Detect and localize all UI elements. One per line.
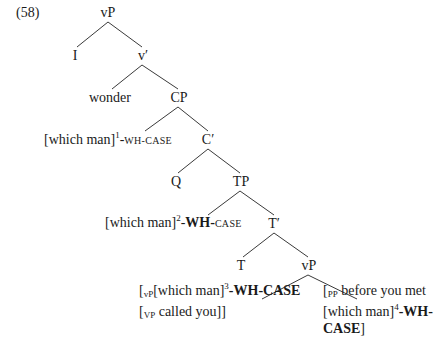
node-v-bar: v′ — [138, 48, 148, 64]
node-vP-root: vP — [101, 5, 116, 21]
node-TP: TP — [233, 174, 249, 190]
node-Q: Q — [171, 174, 181, 190]
node-right-leaf: [PP before you met [which man]4-WH- CASE… — [323, 282, 433, 337]
node-vP-low: vP — [302, 258, 317, 274]
node-spec-tp: [which man]2-WH-CASE — [105, 214, 242, 232]
node-I: I — [73, 48, 78, 64]
node-left-leaf: [vP[which man]3-WH-CASE [VP called you]] — [139, 282, 300, 324]
node-T: T — [237, 258, 246, 274]
node-wonder: wonder — [89, 90, 131, 106]
node-C-bar: C′ — [202, 132, 214, 148]
node-spec-cp: [which man]1-WH-CASE — [44, 131, 172, 149]
node-CP: CP — [170, 90, 187, 106]
node-T-bar: T′ — [268, 216, 280, 232]
